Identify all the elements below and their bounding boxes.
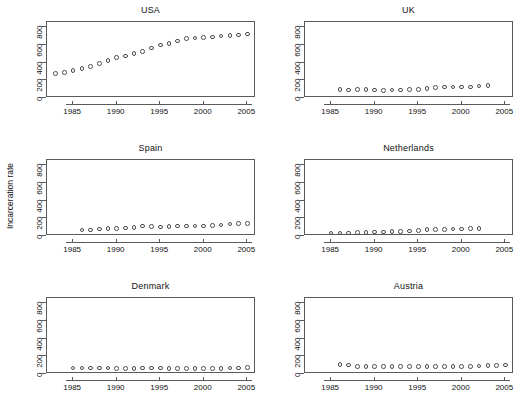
data-point (355, 364, 360, 369)
data-point (132, 366, 137, 371)
data-point (114, 226, 119, 231)
data-point (236, 33, 241, 38)
panel-uk: UK020040060080019851990199520002005 (258, 0, 517, 138)
x-tick-label: 1995 (408, 383, 426, 392)
data-point (193, 224, 198, 229)
x-tick-label: 1985 (63, 245, 81, 254)
x-tick-label: 2005 (495, 383, 513, 392)
data-point (88, 64, 93, 69)
x-tick-label: 1990 (107, 107, 125, 116)
x-tick-label: 1995 (408, 245, 426, 254)
data-point (149, 46, 154, 51)
data-point (193, 366, 198, 371)
data-point (236, 221, 241, 226)
x-tick-mark (203, 101, 204, 105)
x-tick-mark (159, 377, 160, 381)
data-point (106, 366, 111, 371)
data-point (355, 230, 360, 235)
data-point (346, 88, 351, 93)
plot-frame (46, 297, 255, 373)
data-point (451, 227, 456, 232)
x-tick-label: 1995 (150, 383, 168, 392)
data-point (140, 224, 145, 229)
data-point (433, 227, 438, 232)
data-point (80, 228, 85, 233)
data-point (71, 366, 76, 371)
data-point (97, 61, 102, 66)
data-point (80, 366, 85, 371)
data-point (381, 88, 386, 93)
x-tick-mark (374, 239, 375, 243)
y-tick-label: 800 (35, 164, 44, 203)
x-tick-mark (330, 239, 331, 243)
data-point (372, 230, 377, 235)
x-tick-label: 1985 (63, 383, 81, 392)
data-point (372, 364, 377, 369)
data-point (201, 35, 206, 40)
panel-spain: Spain020040060080019851990199520002005 (0, 138, 259, 276)
data-point (425, 364, 430, 369)
data-point (433, 364, 438, 369)
data-point (425, 227, 430, 232)
data-point (407, 364, 412, 369)
data-point (468, 226, 473, 231)
x-tick-label: 1990 (365, 245, 383, 254)
x-tick-mark (246, 239, 247, 243)
data-point (123, 54, 128, 59)
x-tick-label: 1995 (150, 245, 168, 254)
data-point (201, 366, 206, 371)
x-tick-label: 1990 (107, 383, 125, 392)
x-tick-mark (246, 377, 247, 381)
data-point (346, 363, 351, 368)
data-point (338, 362, 343, 367)
data-point (114, 55, 119, 60)
x-tick-label: 1985 (321, 107, 339, 116)
data-point (106, 58, 111, 63)
plot-frame (46, 21, 255, 97)
data-point (477, 226, 482, 231)
panel-netherlands: Netherlands02004006008001985199019952000… (258, 138, 517, 276)
data-point (167, 366, 172, 371)
y-tick-label: 800 (293, 164, 302, 203)
data-point (338, 231, 343, 236)
x-tick-mark (72, 239, 73, 243)
data-point (407, 229, 412, 234)
x-tick-mark (330, 377, 331, 381)
data-point (158, 366, 163, 371)
y-tick-label: 800 (293, 302, 302, 341)
data-point (459, 364, 464, 369)
x-tick-label: 2000 (452, 107, 470, 116)
data-point (468, 364, 473, 369)
data-point (219, 366, 224, 371)
x-tick-mark (374, 377, 375, 381)
data-point (236, 366, 241, 371)
data-point (175, 224, 180, 229)
x-tick-label: 1985 (321, 245, 339, 254)
data-point (210, 35, 215, 40)
data-point (390, 229, 395, 234)
plot-area (47, 160, 254, 234)
data-point (149, 224, 154, 229)
data-point (245, 221, 250, 226)
data-point (88, 366, 93, 371)
plot-area (305, 298, 512, 372)
x-tick-mark (116, 377, 117, 381)
data-point (433, 85, 438, 90)
x-tick-mark (417, 377, 418, 381)
data-point (71, 68, 76, 73)
data-point (398, 88, 403, 93)
data-point (390, 88, 395, 93)
plot-area (305, 160, 512, 234)
data-point (175, 39, 180, 44)
x-tick-label: 1985 (63, 107, 81, 116)
data-point (364, 87, 369, 92)
x-tick-mark (159, 239, 160, 243)
data-point (80, 66, 85, 71)
x-tick-mark (116, 239, 117, 243)
data-point (381, 364, 386, 369)
data-point (451, 85, 456, 90)
data-point (355, 87, 360, 92)
data-point (210, 223, 215, 228)
x-tick-label: 2000 (452, 245, 470, 254)
x-tick-mark (246, 101, 247, 105)
